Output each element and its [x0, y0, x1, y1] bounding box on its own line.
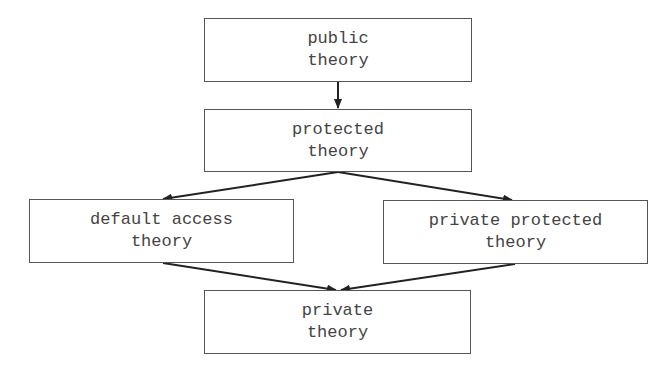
node-default-access-theory: default access theory — [29, 199, 294, 263]
edge-protected-to-default — [163, 172, 338, 199]
edge-private-protected-to-private — [341, 264, 515, 290]
node-protected-theory: protected theory — [204, 109, 472, 172]
node-label-line2: theory — [307, 322, 368, 344]
edge-protected-to-private-protected — [338, 172, 512, 200]
node-label-line1: default access — [90, 209, 233, 231]
node-label-line1: private — [302, 300, 373, 322]
node-label-line1: private protected — [429, 210, 602, 232]
node-label-line1: public — [307, 28, 368, 50]
node-label-line2: theory — [485, 232, 546, 254]
node-label-line2: theory — [131, 231, 192, 253]
node-public-theory: public theory — [204, 18, 472, 82]
edge-default-to-private — [163, 263, 336, 290]
node-private-theory: private theory — [204, 290, 471, 354]
node-label-line1: protected — [292, 119, 384, 141]
node-label-line2: theory — [307, 141, 368, 163]
node-private-protected-theory: private protected theory — [383, 200, 648, 264]
node-label-line2: theory — [307, 50, 368, 72]
